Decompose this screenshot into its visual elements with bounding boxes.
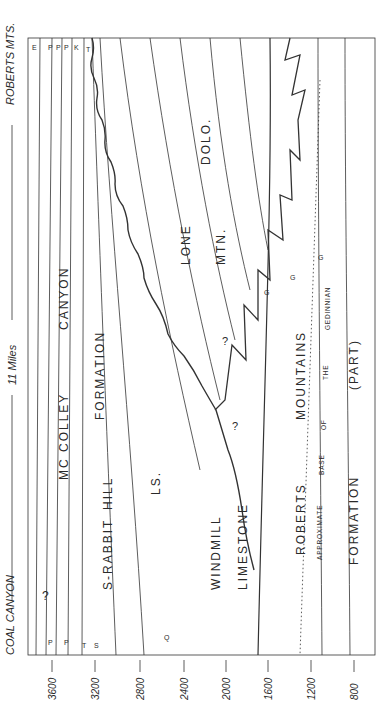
formation-rabbit-hill: S-RABBIT	[101, 519, 115, 590]
formation-rabbit-hill-3: LS.	[149, 471, 163, 495]
scale-label: 3200	[90, 677, 101, 700]
fossil-marker: G	[290, 274, 295, 281]
formation-rabbit-hill-2: HILL	[101, 477, 115, 510]
formation-roberts-3: FORMATION	[347, 476, 361, 565]
fossil-marker: T	[82, 642, 87, 649]
fossil-marker: S	[94, 642, 99, 649]
scale-label: 2000	[221, 677, 232, 701]
distance-label: 11 Miles	[6, 344, 18, 385]
fossil-marker: P	[56, 44, 61, 51]
formation-roberts: ROBERTS	[294, 483, 308, 555]
formation-mccolley-3: FORMATION	[93, 331, 107, 420]
formation-windmill-2: LIMESTONE	[236, 503, 250, 590]
scale-label: 800	[349, 683, 360, 700]
scale-label: 3600	[47, 677, 58, 700]
fossil-marker: G	[318, 254, 323, 261]
fossil-marker: E	[32, 44, 37, 51]
formation-mccolley-2: CANYON	[57, 267, 71, 330]
fossil-marker: P	[48, 639, 53, 646]
datum-label: APPROXIMATE	[316, 505, 323, 560]
fossil-marker: G	[264, 289, 269, 296]
uncertain-mark: ?	[232, 420, 238, 432]
left-end-label: COAL CANYON	[4, 575, 16, 655]
scale-label: 2800	[135, 677, 146, 701]
formation-mccolley: MC COLLEY	[57, 393, 71, 480]
scale-ticks	[52, 660, 354, 672]
scale-label: 1600	[263, 677, 274, 700]
cross-section: 3600 3200 2800 2400 2000 1600 1200 800 C…	[0, 0, 391, 705]
fossil-marker: T	[86, 46, 91, 53]
datum-label: GEDINNIAN	[324, 287, 331, 330]
uncertain-mark: ?	[222, 335, 228, 347]
formation-windmill: WINDMILL	[209, 515, 223, 590]
fossil-marker: P	[48, 44, 53, 51]
formation-lone-mtn-3: DOLO.	[199, 118, 213, 165]
formation-lone-mtn-2: MTN.	[214, 228, 228, 265]
datum-label: BASE	[318, 454, 325, 475]
fossil-marker: P	[64, 44, 69, 51]
uncertain-mark: ?	[42, 589, 49, 603]
formation-roberts-2: MOUNTAINS	[294, 331, 308, 420]
fossil-marker: P	[64, 639, 69, 646]
fossil-marker: K	[74, 44, 79, 51]
scale-label: 2400	[179, 677, 190, 701]
right-end-label: ROBERTS MTS.	[4, 23, 16, 105]
datum-label: THE	[322, 365, 329, 380]
formation-roberts-4: (PART)	[347, 339, 361, 390]
datum-label: OF	[320, 419, 327, 430]
formation-lone-mtn: LONE	[179, 224, 193, 265]
scale-label: 1200	[306, 677, 317, 700]
fossil-marker: Q	[164, 634, 170, 642]
